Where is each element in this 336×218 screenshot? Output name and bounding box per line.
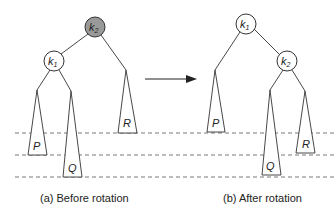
edge-k2-k1: [61, 34, 88, 54]
edge-k1-P: [37, 70, 50, 90]
node-k2-before: k2: [85, 17, 105, 37]
caption-after: (b) After rotation: [223, 192, 302, 204]
edge-k1-k2: [254, 29, 279, 54]
subtree-label: R: [302, 138, 310, 150]
before-tree: P Q R k2 k1: [28, 17, 137, 177]
node-k1-before: k1: [44, 51, 64, 71]
subtree-label: P: [212, 117, 220, 129]
rotation-arrow: [145, 75, 197, 83]
level-lines: [15, 133, 334, 177]
rotation-diagram: P Q R k2 k1: [0, 0, 336, 218]
subtree-label: Q: [266, 160, 275, 172]
subtree-R-before: R: [118, 70, 137, 133]
subtree-label: P: [33, 140, 41, 152]
edge-k1-P: [215, 32, 240, 70]
edge-k2-R: [292, 70, 305, 91]
edge-k2-Q: [270, 70, 283, 90]
subtree-label: R: [123, 117, 131, 129]
subtree-P-after: P: [207, 70, 225, 132]
subtree-Q-after: Q: [262, 90, 281, 175]
diagram-canvas: P Q R k2 k1: [0, 0, 336, 218]
after-tree: P Q R k1 k2: [207, 14, 315, 175]
subtree-P-before: P: [28, 90, 47, 155]
edge-k2-R: [101, 35, 126, 70]
node-k1-after: k1: [236, 14, 256, 34]
subtree-Q-before: Q: [63, 91, 82, 177]
caption-before: (a) Before rotation: [40, 192, 129, 204]
subtree-label: Q: [68, 162, 77, 174]
node-k2-after: k2: [277, 51, 297, 71]
edge-k1-Q: [59, 70, 71, 91]
subtree-R-after: R: [296, 91, 315, 153]
